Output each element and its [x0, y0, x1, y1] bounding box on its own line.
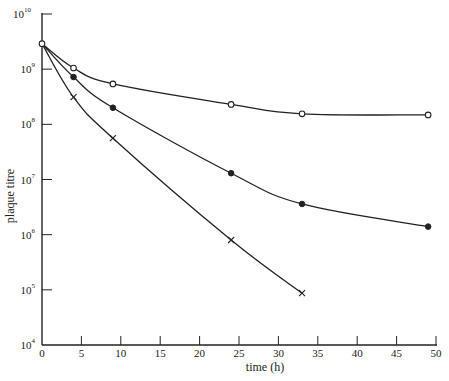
y-tick-label: 104 — [21, 337, 36, 351]
x-tick-label: 45 — [391, 347, 403, 359]
filled-circle-marker — [228, 170, 234, 176]
filled-circle-marker — [110, 105, 116, 111]
x-tick-label: 50 — [431, 347, 443, 359]
x-tick-label: 10 — [115, 347, 127, 359]
series-markers — [39, 41, 431, 296]
y-axis-title: plaque titre — [3, 169, 17, 223]
open-circle-marker — [110, 81, 116, 87]
x-tick-label: 40 — [352, 347, 364, 359]
y-tick-label: 106 — [21, 227, 36, 241]
x-axis-ticks: 05101520253035404550 — [39, 336, 442, 359]
y-tick-label: 105 — [21, 282, 36, 296]
cross-marker — [228, 237, 234, 243]
filled-circle-marker — [71, 74, 77, 80]
curve-cross — [42, 44, 302, 294]
series-curves — [42, 44, 428, 294]
open-circle-marker — [71, 65, 77, 71]
open-circle-marker — [299, 111, 305, 117]
cross-marker — [71, 94, 77, 100]
open-circle-marker — [39, 41, 45, 47]
x-tick-label: 30 — [273, 347, 285, 359]
y-tick-label: 109 — [21, 61, 36, 75]
x-tick-label: 25 — [234, 347, 246, 359]
filled-circle-marker — [425, 224, 431, 230]
x-tick-label: 5 — [79, 347, 85, 359]
cross-marker — [110, 135, 116, 141]
y-tick-label: 108 — [21, 116, 36, 130]
x-tick-label: 0 — [39, 347, 45, 359]
y-axis-ticks: 1041051061071081091010 — [13, 6, 52, 351]
axes — [42, 13, 437, 345]
x-tick-label: 20 — [194, 347, 206, 359]
x-axis-title: time (h) — [246, 360, 284, 374]
curve-open-circle — [42, 44, 428, 115]
plaque-titre-chart: 05101520253035404550 1041051061071081091… — [0, 0, 449, 381]
filled-circle-marker — [299, 201, 305, 207]
open-circle-marker — [425, 112, 431, 118]
y-tick-label: 1010 — [13, 6, 32, 20]
curve-filled-circle — [42, 44, 428, 227]
x-tick-label: 35 — [312, 347, 324, 359]
y-tick-label: 107 — [21, 172, 36, 186]
cross-marker — [299, 290, 305, 296]
x-tick-label: 15 — [155, 347, 167, 359]
open-circle-marker — [228, 102, 234, 108]
